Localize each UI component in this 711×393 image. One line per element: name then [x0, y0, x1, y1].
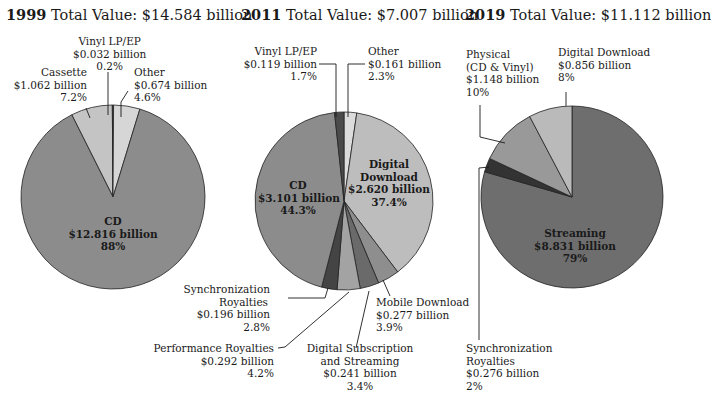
label-value: $0.276 billion — [466, 367, 552, 380]
label-value: $0.856 billion — [558, 59, 650, 72]
label-pct: 4.6% — [134, 91, 207, 104]
label-name-2: Royalties — [160, 296, 270, 309]
label-value: $1.148 billion — [466, 73, 539, 86]
label-name: Physical — [466, 48, 539, 61]
label-value: $8.831 billion — [525, 240, 625, 253]
label-physical-2019: Physical (CD & Vinyl) $1.148 billion 10% — [466, 48, 539, 98]
label-sync-2019: Synchronization Royalties $0.276 billion… — [466, 342, 552, 392]
label-value: $0.196 billion — [160, 308, 270, 321]
label-cd-1999: CD $12.816 billion 88% — [63, 215, 163, 253]
label-other-2011: Other $0.161 billion 2.3% — [368, 45, 441, 83]
label-name: Other — [368, 45, 441, 58]
label-pct: 2% — [466, 380, 552, 393]
label-value: $0.032 billion — [73, 48, 146, 61]
label-pct: 44.3% — [258, 204, 338, 217]
label-value: $1.062 billion — [12, 79, 87, 92]
pie-1999 — [21, 105, 205, 289]
label-pct: 4.2% — [140, 367, 274, 380]
label-pct: 3.9% — [376, 321, 469, 334]
label-stream-2019: Streaming $8.831 billion 79% — [525, 227, 625, 265]
label-name: Digital — [345, 158, 433, 171]
label-cassette-1999: Cassette $1.062 billion 7.2% — [12, 66, 87, 104]
label-perf-2011: Performance Royalties $0.292 billion 4.2… — [140, 342, 274, 380]
label-name: Digital Subscription — [305, 342, 415, 355]
label-name: Performance Royalties — [140, 342, 274, 355]
label-pct: 3.4% — [305, 380, 415, 393]
label-name: Cassette — [12, 66, 87, 79]
label-pct: 2.3% — [368, 70, 441, 83]
label-value: $12.816 billion — [63, 228, 163, 241]
label-name-2: Royalties — [466, 355, 552, 368]
leader-line-mobile-2011 — [383, 280, 390, 296]
label-name-2: and Streaming — [305, 355, 415, 368]
label-pct: 10% — [466, 86, 539, 99]
label-name-2: (CD & Vinyl) — [466, 61, 539, 74]
label-value: $0.241 billion — [305, 367, 415, 380]
label-name: Vinyl LP/EP — [73, 35, 146, 48]
label-name: Vinyl LP/EP — [240, 45, 317, 58]
label-pct: 37.4% — [345, 196, 433, 209]
label-name: Synchronization — [160, 283, 270, 296]
leader-line-vinyl-2011 — [319, 64, 336, 117]
label-pct: 1.7% — [240, 70, 317, 83]
leader-line-stream-2011 — [356, 291, 369, 348]
label-pct: 7.2% — [12, 91, 87, 104]
label-name: Synchronization — [466, 342, 552, 355]
label-name: Other — [134, 66, 207, 79]
leader-line-perf-2011 — [278, 292, 349, 348]
label-download-2019: Digital Download $0.856 billion 8% — [558, 46, 650, 84]
label-download-2011: Digital Download $2.620 billion 37.4% — [345, 158, 433, 208]
label-value: $2.620 billion — [345, 183, 433, 196]
label-vinyl-2011: Vinyl LP/EP $0.119 billion 1.7% — [240, 45, 317, 83]
label-value: $3.101 billion — [258, 192, 338, 205]
label-value: $0.161 billion — [368, 58, 441, 71]
label-name: Mobile Download — [376, 296, 469, 309]
leader-line-sync-2011 — [288, 288, 328, 298]
label-pct: 2.8% — [160, 321, 270, 334]
label-mobile-2011: Mobile Download $0.277 billion 3.9% — [376, 296, 469, 334]
label-cd-2011: CD $3.101 billion 44.3% — [258, 179, 338, 217]
label-stream-2011: Digital Subscription and Streaming $0.24… — [305, 342, 415, 392]
label-other-1999: Other $0.674 billion 4.6% — [134, 66, 207, 104]
leader-line-physical-2019 — [480, 105, 505, 143]
label-pct: 88% — [63, 240, 163, 253]
label-name: Streaming — [525, 227, 625, 240]
label-name-2: Download — [345, 171, 433, 184]
label-value: $0.674 billion — [134, 79, 207, 92]
label-sync-2011: Synchronization Royalties $0.196 billion… — [160, 283, 270, 333]
label-value: $0.292 billion — [140, 355, 274, 368]
label-value: $0.277 billion — [376, 309, 469, 322]
label-pct: 79% — [525, 252, 625, 265]
label-name: CD — [258, 179, 338, 192]
label-name: Digital Download — [558, 46, 650, 59]
label-pct: 8% — [558, 71, 650, 84]
label-name: CD — [63, 215, 163, 228]
label-value: $0.119 billion — [240, 58, 317, 71]
leader-line-other-2011 — [348, 64, 365, 117]
